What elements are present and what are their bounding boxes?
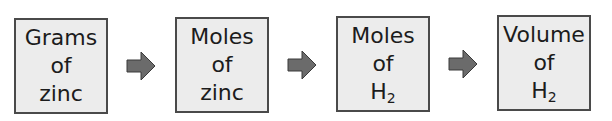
step-line-1: Moles [351,22,415,50]
subscript: 2 [387,90,396,106]
right-arrow-icon [126,51,156,81]
subscript: 2 [548,89,557,105]
step-line-2: of [372,50,393,78]
right-arrow-icon [287,50,317,80]
step-box-moles-of-zinc: Moles of zinc [175,17,269,113]
step-line-2: of [211,51,232,79]
step-line-3: H2 [370,78,395,106]
step-box-moles-of-h2: Moles of H2 [336,16,430,112]
step-line-1: Moles [190,23,254,51]
step-line-2: of [50,52,71,80]
step-box-grams-of-zinc: Grams of zinc [14,18,108,114]
step-line-1: Grams [25,24,97,52]
step-line-3: zinc [200,79,244,107]
step-line-2: of [533,49,554,77]
step-line-3: H2 [531,77,556,105]
step-box-volume-of-h2: Volume of H2 [497,15,591,111]
step-line-1: Volume [503,21,585,49]
step-line-3: zinc [39,80,83,108]
right-arrow-icon [448,49,478,79]
